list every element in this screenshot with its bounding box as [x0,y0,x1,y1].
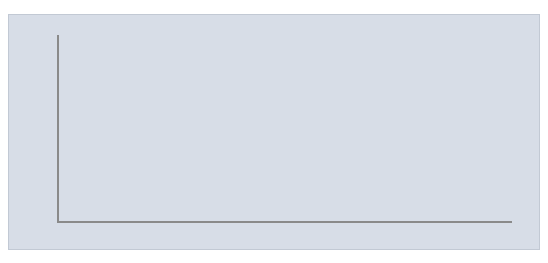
area-series-svg [58,37,510,221]
plot-area [58,37,510,221]
x-axis-labels [9,227,541,263]
chart-frame [8,14,540,250]
chart-screenshot [0,0,548,263]
y-axis-labels [17,37,55,221]
x-axis-line [57,221,512,223]
